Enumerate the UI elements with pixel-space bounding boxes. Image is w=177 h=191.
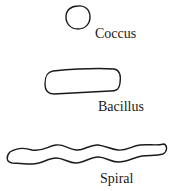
spiral-label: Spiral [100,172,133,186]
bacillus-label: Bacillus [98,100,144,114]
coccus-shape [66,6,90,29]
bacillus-shape [45,69,120,94]
spiral-shape [7,144,166,164]
coccus-label: Coccus [95,27,136,41]
bacteria-shapes-diagram [0,0,177,191]
